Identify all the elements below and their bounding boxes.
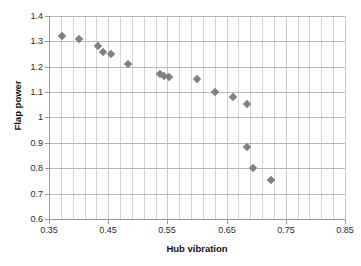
x-axis-tick: [345, 220, 346, 224]
y-axis-tick: [45, 143, 49, 144]
x-axis-tick: [227, 220, 228, 224]
y-axis-tick-label: 0.7: [13, 190, 43, 199]
x-axis-line: [49, 219, 346, 220]
gridline-horizontal: [49, 92, 345, 93]
data-point: [211, 88, 219, 96]
gridline-horizontal: [49, 168, 345, 169]
y-axis-tick: [45, 92, 49, 93]
x-axis-tick: [286, 220, 287, 224]
gridline-horizontal: [49, 67, 345, 68]
y-axis-tick-label: 0.8: [13, 164, 43, 173]
plot-right-border: [345, 16, 346, 220]
y-axis-line: [49, 16, 50, 220]
y-axis-tick-label: 1.4: [13, 12, 43, 21]
y-axis-title: Flap power: [12, 66, 23, 146]
y-axis-tick: [45, 16, 49, 17]
y-axis-tick: [45, 117, 49, 118]
x-axis-tick-label: 0.75: [266, 226, 306, 235]
x-axis-tick: [108, 220, 109, 224]
y-axis-tick: [45, 168, 49, 169]
x-axis-tick-label: 0.85: [325, 226, 361, 235]
x-axis-tick: [167, 220, 168, 224]
gridline-horizontal: [49, 16, 345, 17]
data-point: [193, 75, 201, 83]
x-axis-tick-label: 0.65: [207, 226, 247, 235]
scatter-chart: 0.60.70.80.911.11.21.31.4 0.350.450.550.…: [0, 0, 361, 266]
x-axis-tick-label: 0.45: [88, 226, 128, 235]
data-point: [58, 32, 66, 40]
y-axis-tick-label: 0.6: [13, 215, 43, 224]
gridline-horizontal: [49, 143, 345, 144]
y-axis-tick: [45, 194, 49, 195]
y-axis-tick-label: 1.3: [13, 37, 43, 46]
y-axis-tick: [45, 41, 49, 42]
gridline-horizontal: [49, 41, 345, 42]
x-axis-tick-label: 0.55: [147, 226, 187, 235]
gridline-horizontal: [49, 194, 345, 195]
plot-area: [49, 16, 345, 219]
data-point: [228, 92, 236, 100]
gridline-horizontal: [49, 117, 345, 118]
x-axis-tick-label: 0.35: [29, 226, 69, 235]
x-axis-title: Hub vibration: [49, 243, 345, 254]
y-axis-tick: [45, 67, 49, 68]
x-axis-tick: [49, 220, 50, 224]
